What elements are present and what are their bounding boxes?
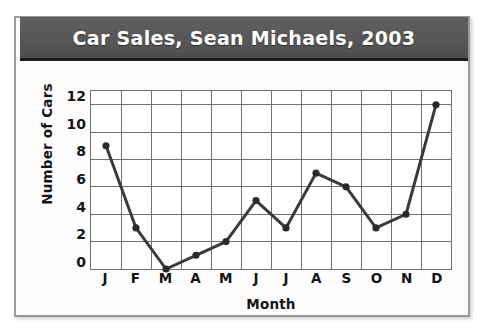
y-axis-tick-label: 2 (76, 227, 86, 241)
x-axis-tick-label: O (371, 272, 382, 286)
y-axis-tick-label: 4 (76, 200, 86, 214)
y-axis-tick-label: 8 (76, 144, 86, 158)
y-axis-tick-label: 12 (67, 89, 86, 103)
x-axis-tick-label: M (219, 272, 232, 286)
chart-title: Car Sales, Sean Michaels, 2003 (73, 27, 416, 49)
x-axis-title: Month (90, 296, 452, 312)
figure-card: Car Sales, Sean Michaels, 2003 Number of… (14, 16, 470, 317)
data-point-marker (402, 211, 409, 218)
x-axis-tick-label: M (159, 272, 172, 286)
series-polyline (106, 105, 436, 269)
x-axis-tick-label: J (284, 272, 289, 286)
x-axis-tick-label: D (431, 272, 442, 286)
chart-body: Number of Cars 024681012 JFMAMJJASOND Mo… (16, 64, 468, 317)
x-axis-tick-label: J (253, 272, 258, 286)
y-axis-tick-labels: 024681012 (60, 82, 86, 268)
x-axis-tick-label: S (342, 272, 352, 286)
x-axis-tick-label: A (190, 272, 200, 286)
x-axis-tick-label: N (401, 272, 412, 286)
x-axis-tick-label: F (131, 272, 140, 286)
data-point-marker (342, 183, 349, 190)
data-point-marker (282, 224, 289, 231)
x-axis-tick-labels: JFMAMJJASOND (90, 272, 452, 294)
data-point-marker (132, 224, 139, 231)
x-axis-tick-label: A (311, 272, 321, 286)
y-axis-tick-label: 6 (76, 172, 86, 186)
data-point-marker (102, 142, 109, 149)
data-series-line (91, 91, 451, 269)
data-point-marker (312, 170, 319, 177)
plot-area (90, 90, 452, 270)
data-point-marker (252, 197, 259, 204)
x-axis-tick-label: J (103, 272, 108, 286)
data-point-marker (372, 224, 379, 231)
title-banner: Car Sales, Sean Michaels, 2003 (20, 17, 468, 61)
y-axis-title: Number of Cars (39, 77, 55, 211)
data-point-marker (192, 252, 199, 259)
y-axis-tick-label: 0 (76, 255, 86, 269)
data-point-marker (222, 238, 229, 245)
data-point-marker (432, 101, 439, 108)
y-axis-tick-label: 10 (67, 117, 86, 131)
